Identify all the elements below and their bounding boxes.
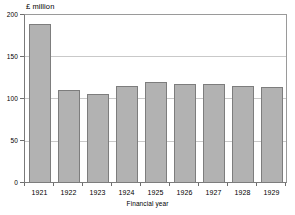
bar-1926[interactable] [174,84,196,183]
x-axis-label-1924: 1924 [112,189,141,196]
y-axis-unit-caption: £ million [26,2,54,11]
bar-1921[interactable] [29,24,51,183]
x-tick-4 [140,183,141,186]
x-axis-label-1928: 1928 [228,189,257,196]
x-tick-1 [53,183,54,186]
x-tick-0 [24,183,25,186]
bar-1924[interactable] [116,86,138,183]
y-axis-label-0: 0 [0,179,18,186]
x-tick-3 [111,183,112,186]
bar-1929[interactable] [261,87,283,183]
bar-1928[interactable] [232,86,254,183]
y-axis-label-50: 50 [0,137,18,144]
bars-layer [25,15,286,183]
x-tick-5 [169,183,170,186]
x-axis-label-1929: 1929 [257,189,286,196]
x-tick-2 [82,183,83,186]
x-tick-8 [256,183,257,186]
x-tick-7 [227,183,228,186]
y-tick-50 [20,140,24,141]
x-axis-label-1923: 1923 [83,189,112,196]
y-tick-200 [20,14,24,15]
x-tick-9 [285,183,286,186]
x-axis-label-1927: 1927 [199,189,228,196]
x-axis-label-1926: 1926 [170,189,199,196]
bar-1923[interactable] [87,94,109,183]
x-axis-label-1925: 1925 [141,189,170,196]
bar-chart: £ million 200 150 100 50 0 1921 1922 192… [0,0,295,215]
y-tick-100 [20,98,24,99]
x-axis-label-1921: 1921 [25,189,54,196]
x-axis-label-1922: 1922 [54,189,83,196]
bar-1927[interactable] [203,84,225,183]
y-axis-label-100: 100 [0,95,18,102]
x-tick-6 [198,183,199,186]
y-axis-label-200: 200 [0,11,18,18]
x-axis-title: Financial year [0,200,295,207]
y-axis-label-150: 150 [0,53,18,60]
y-tick-150 [20,56,24,57]
bar-1922[interactable] [58,90,80,183]
bar-1925[interactable] [145,82,167,183]
